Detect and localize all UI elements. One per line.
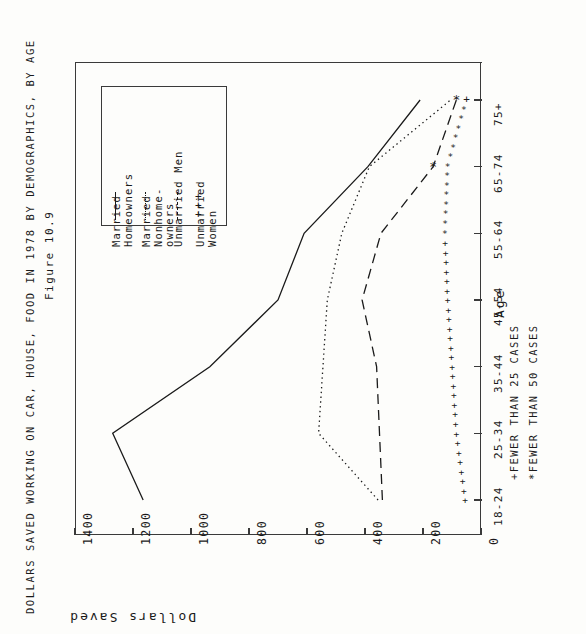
legend-label: Unmarried Men <box>172 151 184 247</box>
svg-text:*: * <box>458 113 464 124</box>
svg-text:+: + <box>456 447 462 458</box>
svg-text:+: + <box>450 380 456 391</box>
svg-text:+: + <box>449 361 455 372</box>
legend-label: Women <box>206 210 218 247</box>
legend-label: Homeowners <box>122 173 134 247</box>
svg-text:*: * <box>443 208 449 219</box>
svg-text:+: + <box>443 247 449 258</box>
footnote-plus: +FEWER THAN 25 CASES <box>508 325 520 480</box>
svg-text:*: * <box>442 228 448 239</box>
svg-text:+: + <box>455 437 461 448</box>
svg-text:+: + <box>444 266 450 277</box>
svg-text:+: + <box>449 351 455 362</box>
svg-text:+: + <box>447 323 453 334</box>
svg-text:+: + <box>451 389 457 400</box>
svg-text:*: * <box>444 180 450 191</box>
series-annotation: * <box>429 159 437 174</box>
svg-text:*: * <box>456 123 462 134</box>
series-unmarried-women: ++++++++++++++++++++++++++++************… <box>442 93 470 505</box>
svg-text:+: + <box>448 342 454 353</box>
svg-text:+: + <box>457 456 463 467</box>
chart-series-layer: **++++++++++++++++++++++++++++**********… <box>0 0 586 634</box>
svg-text:+: + <box>450 370 456 381</box>
footnote-star: *FEWER THAN 50 CASES <box>527 325 539 480</box>
svg-text:+: + <box>445 304 451 315</box>
legend-label: Unmarried <box>194 180 206 247</box>
legend-label: Married <box>110 195 122 247</box>
svg-text:*: * <box>442 218 448 229</box>
svg-text:*: * <box>450 142 456 153</box>
svg-text:+: + <box>461 485 467 496</box>
legend-item: MarriedHomeowners <box>110 87 136 225</box>
svg-text:+: + <box>445 294 451 305</box>
svg-text:+: + <box>458 466 464 477</box>
legend-label: Married <box>140 195 152 247</box>
svg-text:+: + <box>447 332 453 343</box>
svg-text:+: + <box>444 275 450 286</box>
legend-item: MarriedNonhome-owners <box>140 87 166 225</box>
svg-text:+: + <box>442 237 448 248</box>
chart-legend: MarriedHomeownersMarriedNonhome-ownersUn… <box>101 86 227 226</box>
svg-text:*: * <box>445 161 451 172</box>
svg-text:+: + <box>443 256 449 267</box>
svg-text:+: + <box>462 494 468 505</box>
svg-text:*: * <box>447 151 453 162</box>
svg-text:+: + <box>452 399 458 410</box>
svg-text:+: + <box>446 313 452 324</box>
svg-text:*: * <box>443 199 449 210</box>
series-annotation: * <box>452 92 460 107</box>
svg-text:+: + <box>460 475 466 486</box>
svg-text:+: + <box>452 408 458 419</box>
legend-label: Nonhome- <box>152 188 164 247</box>
svg-text:*: * <box>444 189 450 200</box>
svg-text:+: + <box>444 285 450 296</box>
series-unmarried-men <box>362 100 456 500</box>
svg-text:+: + <box>453 418 459 429</box>
svg-text:*: * <box>444 170 450 181</box>
legend-item: + + +UnmarriedWomen <box>194 87 220 225</box>
svg-text:+: + <box>463 93 470 106</box>
svg-text:+: + <box>453 428 459 439</box>
svg-text:*: * <box>453 132 459 143</box>
